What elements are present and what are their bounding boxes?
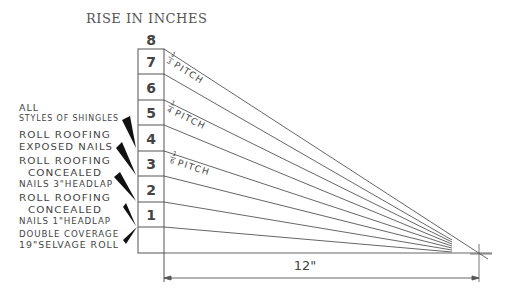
pitch-lines	[164, 49, 492, 259]
pointer-arrow-icon	[114, 172, 136, 201]
pointer-arrow-icon	[116, 142, 136, 175]
svg-text:ROLL ROOFING: ROLL ROOFING	[19, 129, 111, 140]
svg-text:CONCEALED: CONCEALED	[28, 167, 102, 178]
pitch-label-1-4: 1 4 PITCH	[165, 98, 210, 131]
svg-text:3: 3	[165, 57, 173, 66]
material-label-roll-concealed-3: ROLL ROOFING CONCEALED NAILS 3"HEADLAP	[19, 155, 113, 189]
material-label-roll-exposed: ROLL ROOFING EXPOSED NAILS	[19, 129, 113, 152]
rise-label-3: 3	[146, 156, 156, 172]
svg-text:STYLES OF SHINGLES: STYLES OF SHINGLES	[19, 112, 119, 123]
svg-text:NAILS 1"HEADLAP: NAILS 1"HEADLAP	[19, 215, 111, 226]
svg-text:DOUBLE COVERAGE: DOUBLE COVERAGE	[19, 228, 119, 239]
pointer-icons	[114, 116, 137, 244]
rise-label-2: 2	[146, 182, 156, 198]
material-label-roll-concealed-1: ROLL ROOFING CONCEALED NAILS 1"HEADLAP	[19, 192, 111, 226]
run-dimension-label: 12"	[294, 258, 317, 273]
rise-label-1: 1	[146, 207, 156, 223]
svg-text:19"SELVAGE ROLL: 19"SELVAGE ROLL	[19, 239, 119, 250]
pitch-diagram: 8 7 6 5 4 3 2 1 12" 1 3 PITCH 1 4 PIT	[0, 0, 508, 294]
rise-label-6: 6	[146, 80, 156, 96]
pointer-arrow-icon	[122, 116, 136, 148]
svg-text:NAILS 3"HEADLAP: NAILS 3"HEADLAP	[19, 178, 113, 189]
svg-text:EXPOSED NAILS: EXPOSED NAILS	[19, 141, 113, 152]
rise-label-7: 7	[146, 54, 156, 70]
pointer-arrow-icon	[123, 203, 136, 226]
run-dimension-line	[164, 276, 479, 280]
svg-text:4: 4	[166, 106, 173, 115]
rise-label-4: 4	[146, 131, 156, 147]
rise-label-8: 8	[146, 32, 156, 48]
pointer-arrow-icon	[123, 227, 137, 244]
svg-text:ROLL ROOFING: ROLL ROOFING	[19, 192, 111, 203]
svg-text:PITCH: PITCH	[173, 108, 208, 132]
material-label-shingles: ALL STYLES OF SHINGLES	[19, 102, 119, 123]
pitch-label-1-3: 1 3 PITCH	[164, 50, 209, 86]
svg-text:ROLL ROOFING: ROLL ROOFING	[19, 155, 111, 166]
svg-text:6: 6	[169, 157, 175, 166]
rise-label-5: 5	[146, 105, 156, 121]
pitch-label-1-6: 1 6 PITCH	[168, 149, 213, 177]
material-label-double-coverage: DOUBLE COVERAGE 19"SELVAGE ROLL	[19, 228, 119, 250]
svg-text:CONCEALED: CONCEALED	[28, 204, 102, 215]
